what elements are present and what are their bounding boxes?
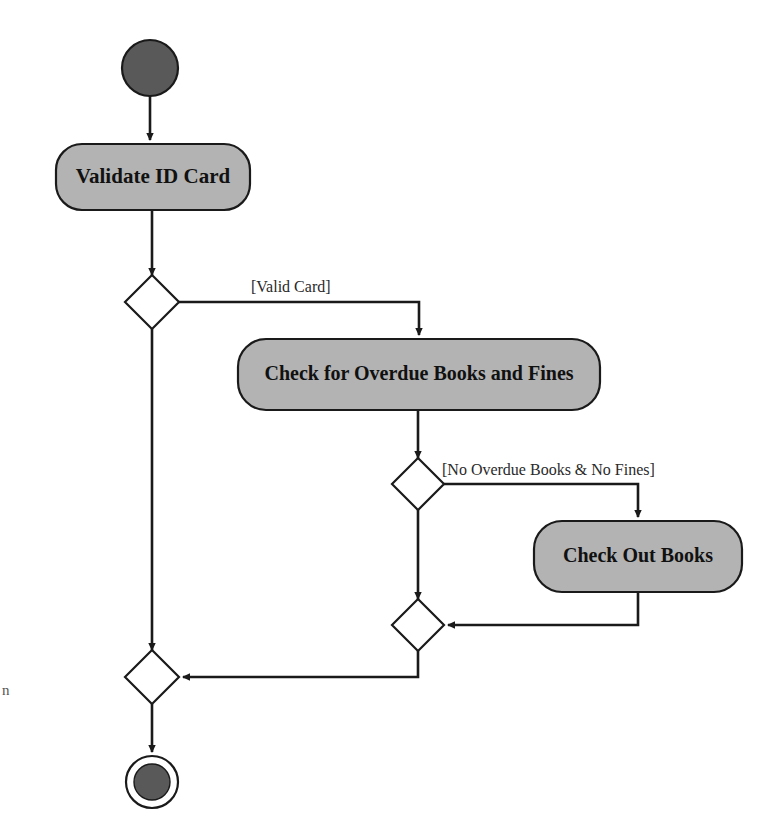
decision-node-valid-card[interactable] (125, 275, 179, 329)
merge-node-inner[interactable] (392, 599, 444, 651)
activity-label-check-overdue: Check for Overdue Books and Fines (264, 362, 573, 384)
merge-node-outer[interactable] (125, 650, 179, 704)
final-node-core (134, 764, 170, 800)
nodes-layer: Validate ID Card Check for Overdue Books… (56, 40, 742, 808)
edge-valid-card-branch (179, 302, 419, 335)
activity-label-check-out-books: Check Out Books (563, 544, 713, 566)
activity-diagram-canvas: Validate ID Card Check for Overdue Books… (0, 0, 770, 826)
decision-node-no-overdue[interactable] (392, 458, 444, 510)
edge-checkout-to-merge-inner (448, 592, 638, 625)
scan-artifact-mark: n (2, 682, 10, 699)
initial-node[interactable] (122, 40, 178, 96)
edge-merge-inner-to-merge-outer (183, 651, 418, 677)
edge-no-overdue-branch (444, 484, 638, 517)
activity-label-validate-id-card: Validate ID Card (76, 164, 231, 188)
guard-label-valid-card: [Valid Card] (251, 278, 331, 295)
guard-label-no-overdue: [No Overdue Books & No Fines] (442, 461, 655, 478)
